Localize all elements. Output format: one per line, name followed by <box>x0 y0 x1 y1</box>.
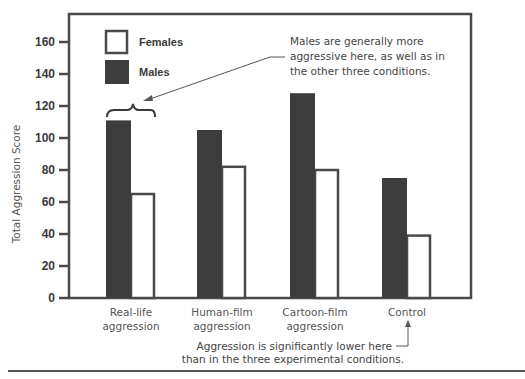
annotation-males-line-1: Males are generally more <box>290 35 424 47</box>
bars <box>106 93 430 298</box>
x-tick-label: aggression <box>102 320 159 332</box>
y-tick-label: 40 <box>42 227 56 241</box>
bar-males <box>106 120 131 298</box>
x-tick-label: Cartoon-film <box>282 306 347 318</box>
y-axis-label: Total Aggression Score <box>10 125 22 245</box>
legend-swatch-females <box>106 31 127 53</box>
annotation-control-line-1: Aggression is significantly lower here <box>197 340 392 352</box>
y-tick-label: 80 <box>42 163 56 177</box>
y-tick-label: 140 <box>35 67 55 81</box>
annotation-males-arrow <box>147 57 270 100</box>
bar-females <box>131 194 154 298</box>
legend-label-females: Females <box>139 36 183 48</box>
x-axis-labels: Real-lifeaggressionHuman-filmaggressionC… <box>102 306 426 332</box>
annotation-males-line-2: aggressive here, as well as in <box>290 50 445 62</box>
bar-females <box>315 170 338 298</box>
arrow-head-icon <box>405 320 411 327</box>
x-tick-label: aggression <box>193 320 250 332</box>
legend: Females Males <box>105 31 183 84</box>
x-tick-label: Control <box>388 306 426 318</box>
y-tick-label: 100 <box>35 131 55 145</box>
bar-females <box>407 236 430 298</box>
y-axis: 020406080100120140160 <box>35 35 69 305</box>
bar-males <box>197 130 222 298</box>
legend-swatch-males <box>105 60 129 84</box>
bar-males <box>290 93 315 298</box>
x-tick-label: Real-life <box>110 306 152 318</box>
y-tick-label: 0 <box>48 291 55 305</box>
arrow-head-icon <box>143 95 153 101</box>
bar-males <box>382 178 407 298</box>
bar-females <box>222 167 245 298</box>
annotation-males-line-3: the other three conditions. <box>290 65 430 77</box>
annotation-control-leader <box>396 325 408 346</box>
y-tick-label: 160 <box>35 35 55 49</box>
x-tick-label: Human-film <box>191 306 252 318</box>
annotation-males: Males are generally more aggressive here… <box>143 35 445 101</box>
aggression-bar-chart: 020406080100120140160 Real-lifeaggressio… <box>0 0 525 379</box>
annotation-control-line-2: than in the three experimental condition… <box>182 353 404 365</box>
x-tick-label: aggression <box>286 320 343 332</box>
y-tick-label: 20 <box>42 259 56 273</box>
y-tick-label: 60 <box>42 195 56 209</box>
legend-label-males: Males <box>139 66 170 78</box>
y-tick-label: 120 <box>35 99 55 113</box>
brace-annotation <box>107 104 155 117</box>
